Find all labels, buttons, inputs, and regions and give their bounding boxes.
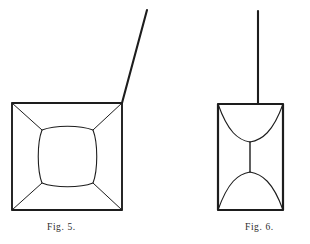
fig6-arc-top-left [218,104,250,142]
figure-plate-drawing [0,0,310,244]
fig5-outer-square [12,103,122,210]
fig5-inner-rounded-square [38,126,97,187]
figure-plate [0,0,310,244]
figure-6-caption: Fig. 6. [245,222,274,232]
figure-5-caption: Fig. 5. [47,222,76,232]
fig6-arc-top-right [250,104,283,142]
fig5-diagonal-bottom-right [93,183,122,210]
fig6-arc-bottom-right [250,172,283,210]
fig5-diagonal-top-right [93,103,122,130]
fig6-arc-bottom-left [218,172,250,210]
figure-5-group [12,10,147,210]
fig5-diagonal-bottom-left [12,183,42,210]
fig5-diagonal-top-left [12,103,42,130]
figure-6-group [218,11,283,210]
fig5-stem-line [122,10,147,103]
